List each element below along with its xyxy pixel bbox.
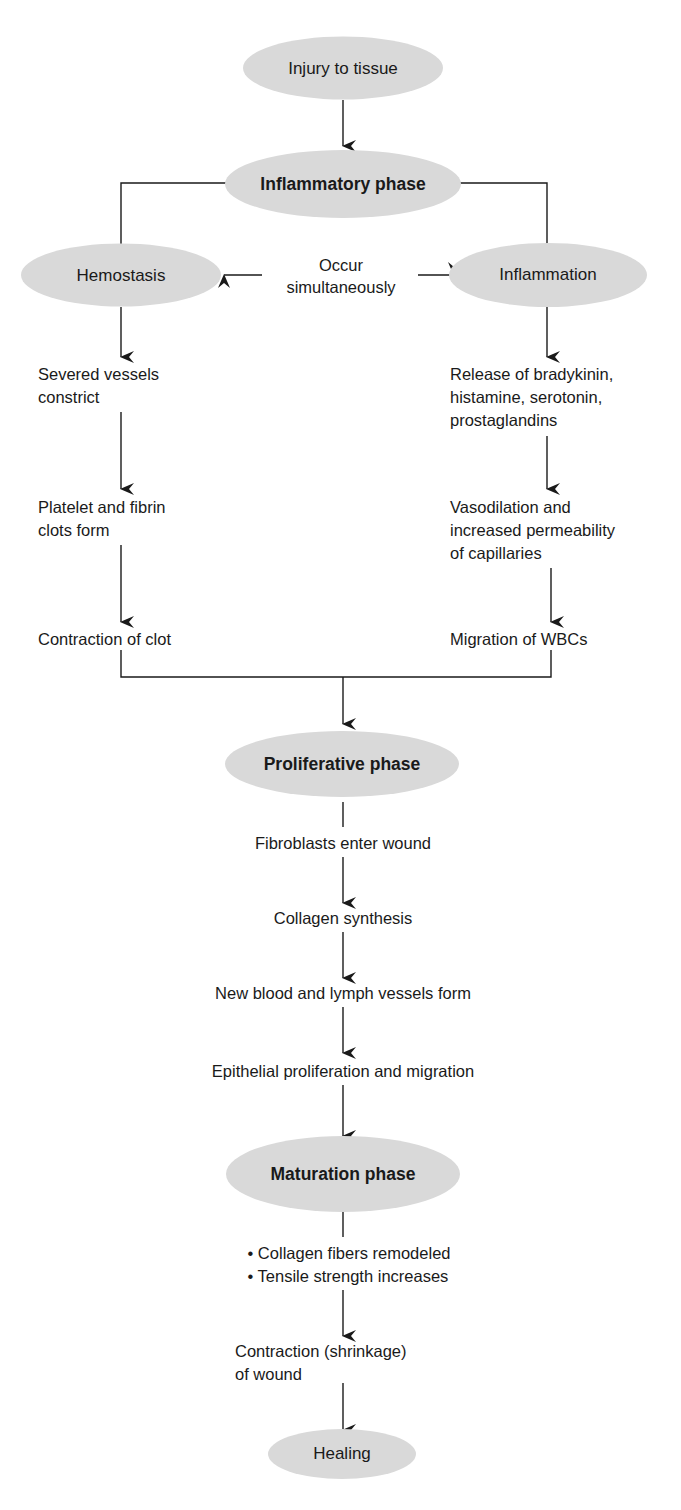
proliferative-step-1: Fibroblasts enter wound — [255, 832, 431, 855]
step-line: histamine, serotonin, — [450, 386, 613, 409]
step-line: Collagen synthesis — [274, 909, 413, 927]
step-line: Contraction of clot — [38, 628, 171, 651]
step-line: of wound — [235, 1363, 407, 1386]
inflammation-step-3: Migration of WBCs — [450, 628, 588, 651]
bullet-item: • Tensile strength increases — [248, 1265, 451, 1288]
bullet-item: • Collagen fibers remodeled — [248, 1242, 451, 1265]
proliferative-step-3: New blood and lymph vessels form — [215, 982, 471, 1005]
node-hemostasis-label: Hemostasis — [77, 265, 166, 285]
contraction-step: Contraction (shrinkage) of wound — [235, 1340, 407, 1386]
node-proliferative-phase: Proliferative phase — [225, 731, 459, 797]
maturation-bullets: • Collagen fibers remodeled • Tensile st… — [248, 1242, 451, 1288]
proliferative-step-4: Epithelial proliferation and migration — [212, 1060, 474, 1083]
step-line: New blood and lymph vessels form — [215, 984, 471, 1002]
step-line: of capillaries — [450, 542, 615, 565]
step-line: increased permeability — [450, 519, 615, 542]
step-line: clots form — [38, 519, 166, 542]
proliferative-step-2: Collagen synthesis — [274, 907, 413, 930]
node-inflammation-label: Inflammation — [499, 265, 596, 285]
inflammation-step-1: Release of bradykinin, histamine, seroto… — [450, 363, 613, 432]
node-injury-label: Injury to tissue — [288, 58, 398, 78]
hemostasis-step-2: Platelet and fibrin clots form — [38, 496, 166, 542]
node-injury: Injury to tissue — [243, 37, 443, 100]
node-healing-label: Healing — [313, 1444, 371, 1464]
note-line: Occur — [286, 254, 395, 276]
hemostasis-step-1: Severed vessels constrict — [38, 363, 159, 409]
wound-healing-flowchart: Injury to tissue Inflammatory phase Hemo… — [0, 0, 681, 1510]
step-line: constrict — [38, 386, 159, 409]
step-line: prostaglandins — [450, 409, 613, 432]
node-inflammation: Inflammation — [449, 243, 647, 307]
step-line: Severed vessels — [38, 363, 159, 386]
node-inflammatory-phase-label: Inflammatory phase — [260, 174, 425, 195]
node-healing: Healing — [268, 1429, 416, 1479]
node-maturation-phase: Maturation phase — [226, 1136, 460, 1212]
hemostasis-step-3: Contraction of clot — [38, 628, 171, 651]
step-line: Migration of WBCs — [450, 628, 588, 651]
step-line: Vasodilation and — [450, 496, 615, 519]
node-hemostasis: Hemostasis — [21, 244, 221, 307]
step-line: Platelet and fibrin — [38, 496, 166, 519]
step-line: Fibroblasts enter wound — [255, 834, 431, 852]
inflammation-step-2: Vasodilation and increased permeability … — [450, 496, 615, 565]
step-line: Release of bradykinin, — [450, 363, 613, 386]
step-line: Epithelial proliferation and migration — [212, 1062, 474, 1080]
node-proliferative-phase-label: Proliferative phase — [264, 754, 421, 775]
occur-simultaneously-note: Occur simultaneously — [286, 254, 395, 298]
node-inflammatory-phase: Inflammatory phase — [225, 150, 461, 218]
node-maturation-phase-label: Maturation phase — [271, 1164, 416, 1185]
step-line: Contraction (shrinkage) — [235, 1340, 407, 1363]
note-line: simultaneously — [286, 276, 395, 298]
